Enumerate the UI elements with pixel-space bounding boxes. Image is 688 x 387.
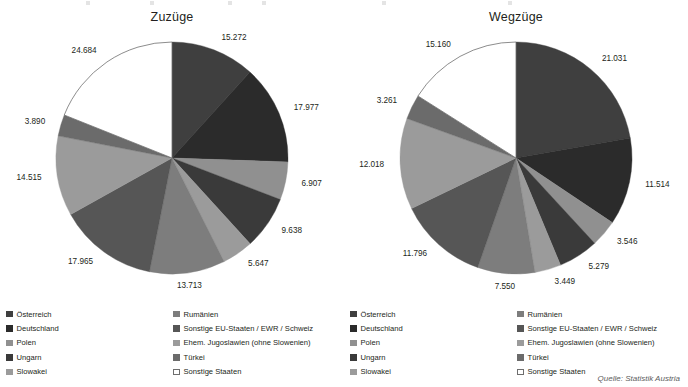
pie-data-label: 17.977 bbox=[294, 104, 319, 112]
pie-data-label: 12.018 bbox=[359, 161, 384, 169]
legend-swatch-icon bbox=[173, 325, 180, 332]
legend-item[interactable]: Ungarn bbox=[6, 350, 173, 364]
legend-swatch-icon bbox=[173, 311, 180, 318]
legend-item[interactable]: Polen bbox=[6, 336, 173, 350]
legend-swatch-icon bbox=[350, 340, 357, 347]
legend-swatch-icon bbox=[350, 354, 357, 361]
pie-data-label: 9.638 bbox=[282, 227, 303, 235]
legend-zuzuege: ÖsterreichDeutschlandPolenUngarnSlowakei… bbox=[0, 307, 344, 379]
legend-column-left: ÖsterreichDeutschlandPolenUngarnSlowakei bbox=[0, 307, 173, 379]
legend-swatch-icon bbox=[6, 354, 13, 361]
legend-item[interactable]: Österreich bbox=[350, 307, 517, 321]
legend-swatch-icon bbox=[350, 311, 357, 318]
chart-panel-wegzuege: Wegzüge 21.03111.5143.5465.2793.4497.550… bbox=[344, 6, 688, 302]
legend-item[interactable]: Slowakei bbox=[6, 365, 173, 379]
chart-page: Zuzüge 15.27217.9776.9079.6385.64713.713… bbox=[0, 0, 688, 387]
legend-item-label: Ungarn bbox=[361, 353, 386, 362]
pie-data-label: 3.546 bbox=[617, 238, 638, 246]
legend-swatch-icon bbox=[350, 369, 357, 376]
legend-swatch-icon bbox=[173, 340, 180, 347]
legend-item-label: Sonstige Staaten bbox=[528, 367, 586, 376]
pie-data-label: 7.550 bbox=[495, 282, 516, 290]
legend-item[interactable]: Polen bbox=[350, 336, 517, 350]
legend-item[interactable]: Ehem. Jugoslawien (ohne Slowenien) bbox=[173, 336, 344, 350]
legend-item-label: Slowakei bbox=[361, 367, 391, 376]
legend-item-label: Sonstige EU-Staaten / EWR / Schweiz bbox=[528, 324, 658, 333]
pie-data-label: 13.713 bbox=[177, 282, 202, 290]
legend-item-label: Sonstige EU-Staaten / EWR / Schweiz bbox=[184, 324, 314, 333]
legend-item-label: Slowakei bbox=[17, 367, 47, 376]
legend-item-label: Deutschland bbox=[361, 324, 403, 333]
legend-item[interactable]: Ungarn bbox=[350, 350, 517, 364]
pie-chart-zuzuege: 15.27217.9776.9079.6385.64713.71317.9651… bbox=[0, 6, 344, 302]
legend-item-label: Österreich bbox=[17, 310, 52, 319]
pie-data-label: 17.965 bbox=[68, 258, 93, 266]
legend-item[interactable]: Sonstige EU-Staaten / EWR / Schweiz bbox=[173, 321, 344, 335]
legend-swatch-icon bbox=[6, 340, 13, 347]
pie-data-label: 5.279 bbox=[589, 263, 610, 271]
legend-swatch-icon bbox=[6, 369, 13, 376]
legend-swatch-icon bbox=[6, 325, 13, 332]
legend-item[interactable]: Ehem. Jugoslawien (ohne Slowenien) bbox=[517, 336, 688, 350]
legend-swatch-icon bbox=[6, 311, 13, 318]
pie-data-label: 21.031 bbox=[602, 55, 627, 63]
legend-swatch-icon bbox=[350, 325, 357, 332]
legend-swatch-icon bbox=[517, 311, 524, 318]
pie-data-label: 3.890 bbox=[25, 118, 46, 126]
pie-chart-wegzuege: 21.03111.5143.5465.2793.4497.55011.79612… bbox=[344, 6, 688, 302]
legend-item-label: Türkei bbox=[184, 353, 205, 362]
chart-panel-zuzuege: Zuzüge 15.27217.9776.9079.6385.64713.713… bbox=[0, 6, 344, 302]
legend-item[interactable]: Slowakei bbox=[350, 365, 517, 379]
pie-data-label: 15.272 bbox=[221, 34, 246, 42]
legend-item-label: Österreich bbox=[361, 310, 396, 319]
pie-data-label: 24.684 bbox=[72, 47, 97, 55]
legend-item-label: Ungarn bbox=[17, 353, 42, 362]
pie-data-label: 11.796 bbox=[403, 250, 427, 258]
legend-item-label: Deutschland bbox=[17, 324, 59, 333]
pie-data-label: 11.514 bbox=[645, 181, 669, 189]
pie-slices-group bbox=[0, 6, 344, 302]
legend-item[interactable]: Sonstige Staaten bbox=[173, 365, 344, 379]
legend-swatch-icon bbox=[517, 325, 524, 332]
legend-item-label: Polen bbox=[17, 338, 36, 347]
legend-item-label: Sonstige Staaten bbox=[184, 367, 242, 376]
legend-item-label: Ehem. Jugoslawien (ohne Slowenien) bbox=[528, 338, 655, 347]
pie-data-label: 6.907 bbox=[301, 180, 322, 188]
legend-swatch-icon bbox=[517, 354, 524, 361]
legend-column-right: RumänienSonstige EU-Staaten / EWR / Schw… bbox=[517, 307, 688, 379]
pie-data-label: 5.647 bbox=[248, 260, 269, 268]
legend-column-right: RumänienSonstige EU-Staaten / EWR / Schw… bbox=[173, 307, 344, 379]
pie-data-label: 14.515 bbox=[17, 174, 42, 182]
legend-column-left: ÖsterreichDeutschlandPolenUngarnSlowakei bbox=[344, 307, 517, 379]
legend-swatch-icon bbox=[173, 354, 180, 361]
legend-swatch-icon bbox=[517, 340, 524, 347]
legend-item[interactable]: Rumänien bbox=[173, 307, 344, 321]
legend-item-label: Polen bbox=[361, 338, 380, 347]
source-note: Quelle: Statistik Austria bbox=[598, 374, 680, 383]
legend-item[interactable]: Rumänien bbox=[517, 307, 688, 321]
pie-data-label: 15.160 bbox=[426, 41, 451, 49]
legend-wegzuege: ÖsterreichDeutschlandPolenUngarnSlowakei… bbox=[344, 307, 688, 379]
pie-data-label: 3.261 bbox=[377, 97, 398, 105]
legend-item-label: Rumänien bbox=[184, 310, 219, 319]
legend-item-label: Türkei bbox=[528, 353, 549, 362]
legend-item-label: Rumänien bbox=[528, 310, 563, 319]
legend-item[interactable]: Deutschland bbox=[6, 321, 173, 335]
legend-item-label: Ehem. Jugoslawien (ohne Slowenien) bbox=[184, 338, 311, 347]
legend-swatch-icon bbox=[173, 369, 180, 376]
legend-item[interactable]: Österreich bbox=[6, 307, 173, 321]
legend-item[interactable]: Türkei bbox=[517, 350, 688, 364]
legend-item[interactable]: Deutschland bbox=[350, 321, 517, 335]
pie-slices-group bbox=[344, 6, 688, 302]
legend-item[interactable]: Türkei bbox=[173, 350, 344, 364]
legend-swatch-icon bbox=[517, 369, 524, 376]
pie-data-label: 3.449 bbox=[555, 278, 576, 286]
legend-item[interactable]: Sonstige EU-Staaten / EWR / Schweiz bbox=[517, 321, 688, 335]
